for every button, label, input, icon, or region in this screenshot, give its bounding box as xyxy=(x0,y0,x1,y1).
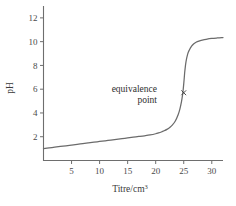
y-tick-label: 12 xyxy=(29,13,38,23)
equivalence-point-label: equivalence xyxy=(112,84,157,94)
y-axis-title: pH xyxy=(5,82,15,94)
y-tick-label: 4 xyxy=(33,108,38,118)
x-axis-title: Titre/cm3 xyxy=(112,183,148,195)
y-tick-group: 24681012 xyxy=(29,13,44,142)
x-tick-label: 15 xyxy=(123,166,133,176)
equivalence-point-marker xyxy=(181,90,186,95)
equivalence-point-label-line2: point xyxy=(137,95,157,105)
ph-titration-chart: 24681012 51015202530 pH Titre/cm3 equiva… xyxy=(0,0,236,206)
x-tick-label: 10 xyxy=(95,166,105,176)
y-tick-label: 2 xyxy=(33,132,38,142)
x-tick-label: 30 xyxy=(207,166,217,176)
chart-canvas: 24681012 51015202530 pH Titre/cm3 equiva… xyxy=(0,0,236,206)
y-tick-label: 8 xyxy=(33,61,38,71)
x-axis-title-superscript: 3 xyxy=(145,183,148,190)
x-tick-label: 20 xyxy=(151,166,161,176)
y-tick-label: 6 xyxy=(33,84,38,94)
y-tick-label: 10 xyxy=(29,37,39,47)
x-tick-label: 25 xyxy=(179,166,189,176)
x-tick-label: 5 xyxy=(69,166,74,176)
x-tick-group: 51015202530 xyxy=(69,161,216,176)
x-axis-title-base: Titre/cm xyxy=(112,184,145,194)
